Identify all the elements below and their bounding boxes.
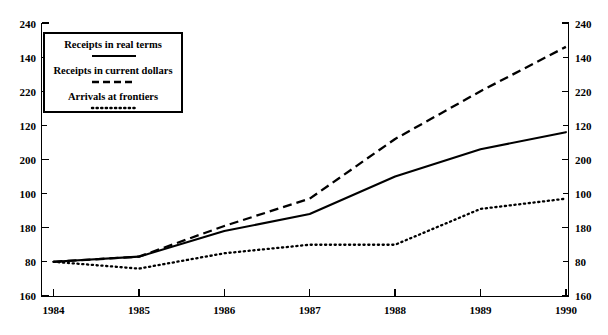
y-tick-label-right: 160 — [575, 290, 592, 302]
legend: Receipts in real terms Receipts in curre… — [44, 33, 182, 112]
x-tick-label: 1987 — [299, 304, 322, 316]
y-tick-label-left: 80 — [25, 256, 37, 268]
y-tick-label-left: 200 — [20, 154, 37, 166]
y-tick-label-right: 200 — [575, 154, 592, 166]
y-tick-label-left: 100 — [20, 188, 37, 200]
x-tick-label: 1986 — [213, 304, 236, 316]
x-tick-label: 1989 — [470, 304, 493, 316]
x-tick-label: 1988 — [384, 304, 407, 316]
x-tick-label: 1985 — [128, 304, 151, 316]
x-axis-ticks: 1984 1985 1986 1987 1988 1989 1990 — [43, 289, 578, 316]
chart-container: 240 220 200 180 160 240 220 200 — [0, 0, 608, 335]
y-tick-label-right: 220 — [575, 86, 592, 98]
y-tick-label-right: 140 — [575, 52, 592, 64]
y-tick-label-left: 160 — [20, 290, 37, 302]
y-tick-label-left: 140 — [20, 52, 37, 64]
y-tick-label-right: 80 — [575, 256, 587, 268]
y-tick-label-left: 240 — [20, 18, 37, 30]
x-tick-label: 1990 — [555, 304, 578, 316]
series-receipts-in-real-terms — [54, 132, 566, 262]
y-tick-label-right: 240 — [575, 18, 592, 30]
y-tick-label-left: 120 — [20, 120, 37, 132]
x-tick-label: 1984 — [43, 304, 66, 316]
y-tick-label-left: 220 — [20, 86, 37, 98]
y-tick-label-right: 120 — [575, 120, 592, 132]
y-tick-label-right: 100 — [575, 188, 592, 200]
legend-label-1: Receipts in current dollars — [53, 65, 172, 76]
legend-label-2: Arrivals at frontiers — [68, 91, 158, 102]
legend-label-0: Receipts in real terms — [64, 39, 161, 50]
y-tick-label-left: 180 — [20, 222, 37, 234]
line-chart: 240 220 200 180 160 240 220 200 — [0, 0, 608, 335]
y-tick-label-right: 180 — [575, 222, 592, 234]
